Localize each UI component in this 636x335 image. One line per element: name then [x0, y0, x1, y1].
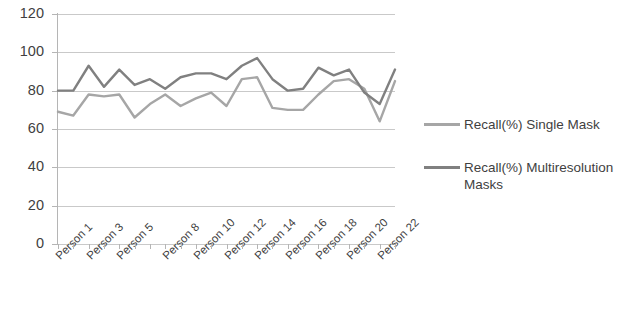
- legend-item-multiresolution-masks[interactable]: Recall(%) Multiresolution Masks: [424, 159, 632, 193]
- legend-color-swatch-multiresolution-masks: [424, 166, 460, 169]
- legend-item-single-mask[interactable]: Recall(%) Single Mask: [424, 116, 632, 133]
- chart-legend: Recall(%) Single Mask Recall(%) Multires…: [424, 116, 632, 219]
- series-line-recall-multiresolution-masks: [58, 58, 395, 104]
- legend-label-single-mask: Recall(%) Single Mask: [464, 116, 632, 133]
- legend-label-multiresolution-masks: Recall(%) Multiresolution Masks: [464, 159, 632, 193]
- legend-color-swatch-single-mask: [424, 123, 460, 126]
- series-line-recall-single-mask: [58, 77, 395, 121]
- recall-line-chart: 020406080100120 Person 1Person 3Person 5…: [0, 0, 636, 335]
